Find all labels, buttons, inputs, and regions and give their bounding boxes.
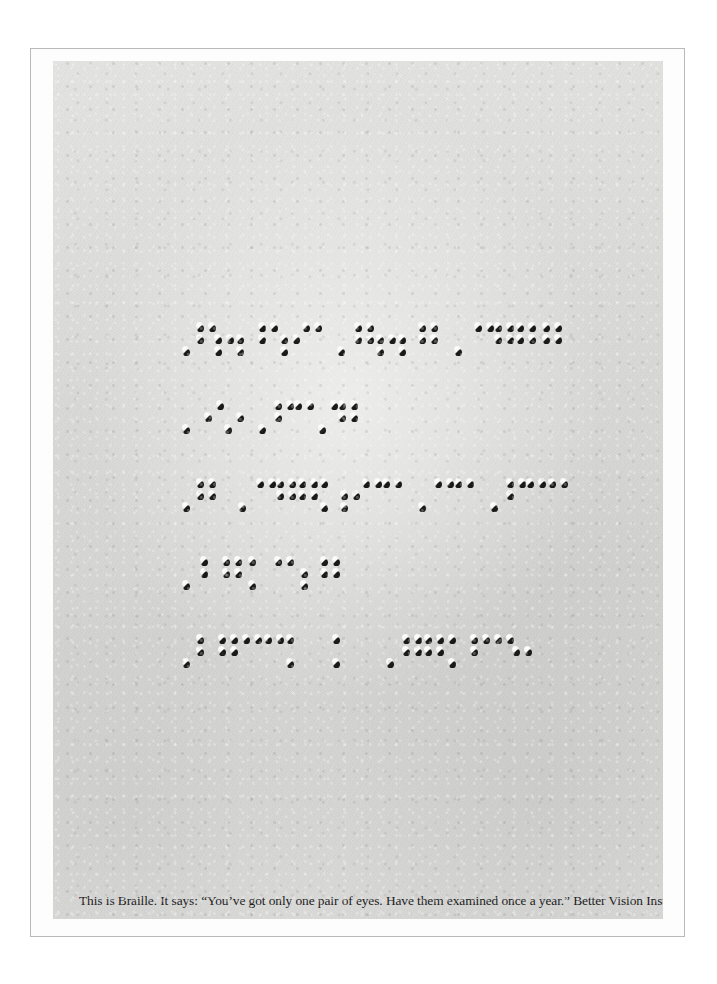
braille-dot <box>547 479 556 488</box>
braille-dot <box>195 635 204 644</box>
braille-cell <box>331 635 357 675</box>
braille-dot <box>237 503 246 512</box>
braille-dot <box>493 323 502 332</box>
braille-dot <box>319 557 328 566</box>
braille-dot <box>269 323 278 332</box>
braille-dot <box>349 413 358 422</box>
braille-cell <box>247 557 273 597</box>
braille-dot <box>273 557 282 566</box>
braille-cell <box>381 479 407 519</box>
braille-dot <box>253 635 262 644</box>
braille-dot <box>435 647 444 656</box>
braille-dot <box>337 413 346 422</box>
braille-dot <box>381 479 390 488</box>
braille-dot <box>313 323 322 332</box>
braille-dot <box>525 479 534 488</box>
braille-dot <box>291 335 300 344</box>
braille-dot <box>309 479 318 488</box>
braille-dot <box>257 335 266 344</box>
braille-dot <box>505 491 514 500</box>
braille-dot <box>505 479 514 488</box>
braille-dot <box>553 323 562 332</box>
braille-dot <box>287 479 296 488</box>
braille-dot <box>285 635 294 644</box>
braille-dot <box>349 401 358 410</box>
braille-cell <box>547 479 573 519</box>
braille-line <box>181 479 601 557</box>
advertisement-frame: This is Braille. It says: “You’ve got on… <box>30 48 685 937</box>
braille-dot <box>207 479 216 488</box>
braille-dot <box>301 323 310 332</box>
braille-paper-surface: This is Braille. It says: “You’ve got on… <box>53 61 663 919</box>
braille-dot <box>285 659 294 668</box>
braille-dot <box>285 557 294 566</box>
braille-dot <box>336 347 345 356</box>
braille-line <box>181 557 601 635</box>
braille-dot <box>493 635 502 644</box>
braille-dot <box>553 335 562 344</box>
braille-dot <box>195 647 204 656</box>
braille-dot <box>397 335 406 344</box>
braille-dot <box>317 425 326 434</box>
braille-dot <box>473 323 482 332</box>
braille-cell <box>417 323 443 363</box>
braille-dot <box>453 479 462 488</box>
braille-dot <box>365 323 374 332</box>
braille-dot <box>319 479 328 488</box>
braille-dot <box>505 335 514 344</box>
braille-dot <box>293 401 302 410</box>
braille-cell <box>511 635 537 675</box>
braille-dot <box>279 347 288 356</box>
braille-dot <box>235 347 244 356</box>
braille-dot <box>247 581 256 590</box>
braille-dot <box>423 647 432 656</box>
braille-dot <box>505 323 514 332</box>
braille-dot <box>375 347 384 356</box>
braille-cell <box>217 635 243 675</box>
braille-dot <box>435 635 444 644</box>
braille-line <box>181 323 601 401</box>
braille-dot <box>385 659 394 668</box>
braille-dot <box>299 581 308 590</box>
braille-dot <box>417 323 426 332</box>
braille-dot <box>481 635 490 644</box>
braille-dot <box>181 503 190 512</box>
braille-dot <box>361 479 370 488</box>
braille-dot <box>275 635 284 644</box>
braille-dot <box>417 503 426 512</box>
braille-dot <box>447 659 456 668</box>
braille-cell <box>541 323 567 363</box>
braille-dot <box>223 425 232 434</box>
braille-cell <box>469 635 495 675</box>
braille-cell <box>319 557 345 597</box>
braille-cell <box>221 557 247 597</box>
braille-dot <box>213 335 222 344</box>
braille-dot <box>339 491 348 500</box>
braille-dot <box>397 347 406 356</box>
braille-dot <box>275 479 284 488</box>
braille-dot <box>493 335 502 344</box>
braille-dot <box>401 635 410 644</box>
braille-dot <box>489 503 498 512</box>
braille-dot <box>255 479 264 488</box>
braille-text-block <box>181 323 601 713</box>
braille-cell <box>301 323 327 363</box>
braille-dot <box>351 491 360 500</box>
braille-dot <box>217 635 226 644</box>
braille-dot <box>257 425 266 434</box>
braille-dot <box>199 569 208 578</box>
braille-dot <box>511 647 520 656</box>
braille-dot <box>229 635 238 644</box>
braille-line <box>181 635 601 713</box>
braille-dot <box>207 491 216 500</box>
braille-cell <box>285 635 311 675</box>
braille-dot <box>319 503 328 512</box>
braille-dot <box>235 335 244 344</box>
braille-dot <box>181 659 190 668</box>
braille-dot <box>195 491 204 500</box>
braille-dot <box>541 323 550 332</box>
braille-dot <box>257 323 266 332</box>
braille-dot <box>523 647 532 656</box>
braille-dot <box>297 491 306 500</box>
braille-dot <box>447 635 456 644</box>
